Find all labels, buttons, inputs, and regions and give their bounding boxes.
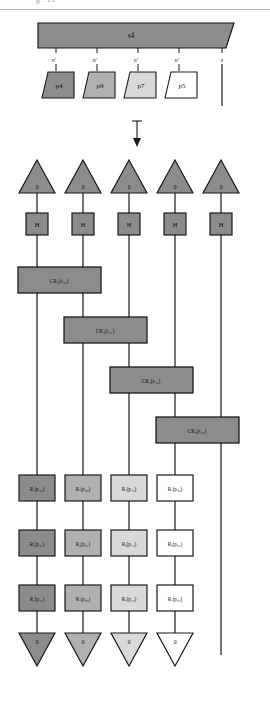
input-triangle-2-label: 0 xyxy=(128,184,131,190)
rotation-gate-r2-c0-label: Rₓ(p₄₂) xyxy=(30,596,45,603)
child-node-p4-label: p4 xyxy=(56,82,64,90)
rotation-gate-r1-c3-label: Rᵧ(p₅₁) xyxy=(168,541,183,548)
quantum-circuit-diagram: 0 0 0 0 0 H H H H H CR₂(s₄₀) CR₃(s₄₁) CR… xyxy=(0,155,270,695)
hadamard-gate-1-label: H xyxy=(81,221,86,228)
edge-label-3: n′ xyxy=(175,57,180,63)
arrow-head-icon xyxy=(133,138,141,147)
hadamard-gate-0-label: H xyxy=(35,221,40,228)
hadamard-gate-3-label: H xyxy=(173,221,178,228)
output-triangle-1-label: 0 xyxy=(82,639,85,645)
rotation-gate-r2-c1-label: Rₓ(p₉₂) xyxy=(76,596,91,603)
output-triangle-2-label: 0 xyxy=(128,639,131,645)
transition-arrow xyxy=(117,117,157,151)
edge-label-2: n′ xyxy=(134,57,139,63)
output-triangle-0[interactable] xyxy=(19,633,55,666)
output-triangle-2[interactable] xyxy=(111,633,147,666)
hadamard-gate-2-label: H xyxy=(127,221,132,228)
output-triangle-1[interactable] xyxy=(65,633,101,666)
rotation-gate-r2-c2-label: Rₓ(p₇₂) xyxy=(122,596,137,603)
rotation-gate-r0-c3-label: Rₓ(p₅₀) xyxy=(168,486,183,493)
controlled-rotation-gate-3-label: CR₅(s₄₃) xyxy=(188,428,207,435)
rotation-gate-r0-c0-label: Rₓ(p₄₀) xyxy=(30,486,45,493)
parent-node-s4-shape[interactable] xyxy=(38,23,234,48)
edge-label-1: n′ xyxy=(93,57,98,63)
input-triangle-1-label: 0 xyxy=(82,184,85,190)
controlled-rotation-gate-2-label: CR₄(s₄₂) xyxy=(142,378,161,385)
rotation-gate-r1-c2-label: Rᵧ(p₇₁) xyxy=(122,541,137,548)
child-node-p7-label: p7 xyxy=(138,82,146,90)
child-node-p9-label: p9 xyxy=(97,82,105,90)
rotation-gate-r2-c3-label: Rₓ(p₅₂) xyxy=(168,596,183,603)
figure-root: g. 11 s4 n′ n′ n′ n′ s p4 p9 p7 p5 xyxy=(0,0,270,704)
edge-label-0: n′ xyxy=(52,57,57,63)
child-node-p5-label: p5 xyxy=(179,82,187,90)
output-triangle-3[interactable] xyxy=(157,633,193,666)
top-tree-diagram: s4 n′ n′ n′ n′ s p4 p9 p7 p5 xyxy=(0,10,270,120)
input-triangle-4-label: 0 xyxy=(220,184,223,190)
input-triangle-0-label: 0 xyxy=(36,184,39,190)
rotation-gate-r0-c2-label: Rₓ(p₇₀) xyxy=(122,486,137,493)
output-triangle-0-label: 0 xyxy=(36,639,39,645)
output-triangle-3-label: 0 xyxy=(174,639,177,645)
hadamard-gate-4-label: H xyxy=(219,221,224,228)
controlled-rotation-gate-0-label: CR₂(s₄₀) xyxy=(50,278,69,285)
input-triangle-3-label: 0 xyxy=(174,184,177,190)
rotation-gate-r1-c0-label: Rᵧ(p₄₁) xyxy=(30,541,45,548)
cut-off-header-text: g. 11 xyxy=(36,0,56,4)
edge-label-4: s xyxy=(221,57,224,63)
parent-node-s4-label: s4 xyxy=(128,31,135,40)
rotation-gate-r0-c1-label: Rₓ(p₉₀) xyxy=(76,486,91,493)
rotation-gate-r1-c1-label: Rᵧ(p₉₁) xyxy=(76,541,91,548)
controlled-rotation-gate-1-label: CR₃(s₄₁) xyxy=(96,328,115,335)
